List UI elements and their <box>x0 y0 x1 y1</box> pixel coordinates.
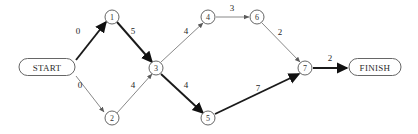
node-1-label: 1 <box>110 13 114 22</box>
edge-weight-1-3: 5 <box>131 26 136 36</box>
terminal-finish-label: FINISH <box>360 63 391 73</box>
edge-3-5 <box>161 74 203 113</box>
terminal-group: START FINISH <box>19 59 401 76</box>
edge-weight-5-7: 7 <box>256 83 261 93</box>
edge-weight-start-1: 0 <box>76 26 81 36</box>
terminal-start-label: START <box>33 63 62 73</box>
node-7-label: 7 <box>303 64 307 73</box>
edge-weight-6-7: 2 <box>278 27 283 37</box>
node-2-label: 2 <box>110 114 114 123</box>
edge-weight-4-6: 3 <box>230 3 235 13</box>
diagram-canvas: START FINISH 1 2 3 4 5 6 7 0 0 5 4 4 <box>0 0 418 134</box>
edge-weight-3-4: 4 <box>184 26 189 36</box>
edge-5-7 <box>215 74 299 114</box>
edge-weight-3-5: 4 <box>184 80 189 90</box>
edge-3-4 <box>161 23 203 62</box>
network-diagram: START FINISH 1 2 3 4 5 6 7 0 0 5 4 4 <box>0 0 418 134</box>
edge-weight-2-3: 4 <box>131 80 136 90</box>
edge-weight-7-finish: 2 <box>328 53 333 63</box>
node-4-label: 4 <box>206 13 210 22</box>
node-6-label: 6 <box>255 13 259 22</box>
node-3-label: 3 <box>154 64 158 73</box>
node-5-label: 5 <box>206 114 210 123</box>
edge-start-1 <box>76 22 106 60</box>
edge-weight-start-2: 0 <box>78 80 83 90</box>
